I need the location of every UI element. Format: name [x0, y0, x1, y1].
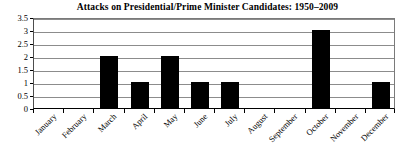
y-tick-mark — [30, 57, 33, 58]
bar-slot — [366, 19, 396, 108]
x-tick-label: August — [246, 112, 270, 136]
bar[interactable] — [372, 82, 390, 108]
bar[interactable] — [312, 30, 330, 108]
bar-slot — [336, 19, 366, 108]
bar[interactable] — [161, 56, 179, 108]
y-tick-label: 0.5 — [17, 92, 28, 101]
bar[interactable] — [131, 82, 149, 108]
y-tick-label: 0 — [24, 105, 28, 114]
plot-area — [33, 18, 395, 109]
y-tick-mark — [30, 44, 33, 45]
bar-slot — [155, 19, 185, 108]
x-tick-label: March — [97, 112, 119, 134]
bar-slot — [245, 19, 275, 108]
y-tick-mark — [30, 109, 33, 110]
x-tick-label: July — [223, 112, 239, 128]
y-tick-label: 1.5 — [17, 66, 28, 75]
x-tick-label: April — [130, 112, 149, 131]
x-tick-label: October — [304, 112, 330, 138]
chart-figure: Attacks on Presidential/Prime Minister C… — [0, 0, 415, 163]
bar-slot — [215, 19, 245, 108]
y-tick-label: 2 — [24, 53, 28, 62]
bar[interactable] — [221, 82, 239, 108]
bar-slot — [94, 19, 124, 108]
bar-slot — [125, 19, 155, 108]
y-tick-label: 3 — [24, 27, 28, 36]
bar[interactable] — [100, 56, 118, 108]
x-tick-label: June — [192, 112, 209, 129]
x-tick-label: January — [33, 112, 58, 137]
bar[interactable] — [191, 82, 209, 108]
bar-slot — [64, 19, 94, 108]
bar-slot — [275, 19, 305, 108]
y-tick-label: 1 — [24, 79, 28, 88]
x-axis-labels: JanuaryFebruaryMarchAprilMayJuneJulyAugu… — [33, 112, 395, 163]
y-tick-mark — [30, 96, 33, 97]
x-tick-label: May — [162, 112, 179, 129]
x-tick-label: December — [359, 112, 390, 143]
y-tick-mark — [30, 31, 33, 32]
bar-slot — [185, 19, 215, 108]
chart-title: Attacks on Presidential/Prime Minister C… — [0, 1, 415, 13]
y-tick-mark — [30, 83, 33, 84]
bar-slot — [34, 19, 64, 108]
bar-series — [34, 19, 394, 108]
bar-slot — [306, 19, 336, 108]
y-tick-mark — [30, 18, 33, 19]
y-tick-mark — [30, 70, 33, 71]
y-axis: 00.511.522.533.5 — [0, 18, 30, 109]
x-tick-label: September — [268, 112, 300, 144]
x-tick-label: February — [61, 112, 89, 140]
y-tick-label: 3.5 — [17, 14, 28, 23]
y-tick-label: 2.5 — [17, 40, 28, 49]
x-tick-label: November — [328, 112, 360, 144]
